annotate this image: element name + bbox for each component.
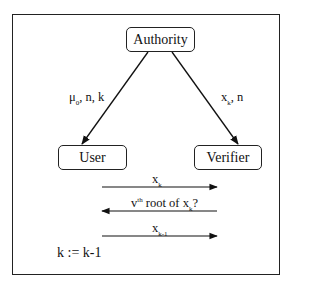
message-label-2: vth root of xk? <box>131 196 198 213</box>
authority-node: Authority <box>126 27 195 52</box>
counter-update: k := k-1 <box>57 245 101 261</box>
authority-label: Authority <box>133 32 187 48</box>
user-label: User <box>79 150 105 166</box>
verifier-node: Verifier <box>194 145 262 170</box>
user-node: User <box>58 145 127 170</box>
edge-label-user: μ0, n, k <box>69 90 104 107</box>
message-label-3: xk-1 <box>152 221 168 238</box>
verifier-label: Verifier <box>207 150 250 166</box>
edge-label-verifier: xk, n <box>221 90 243 107</box>
message-label-1: xk <box>152 172 162 189</box>
